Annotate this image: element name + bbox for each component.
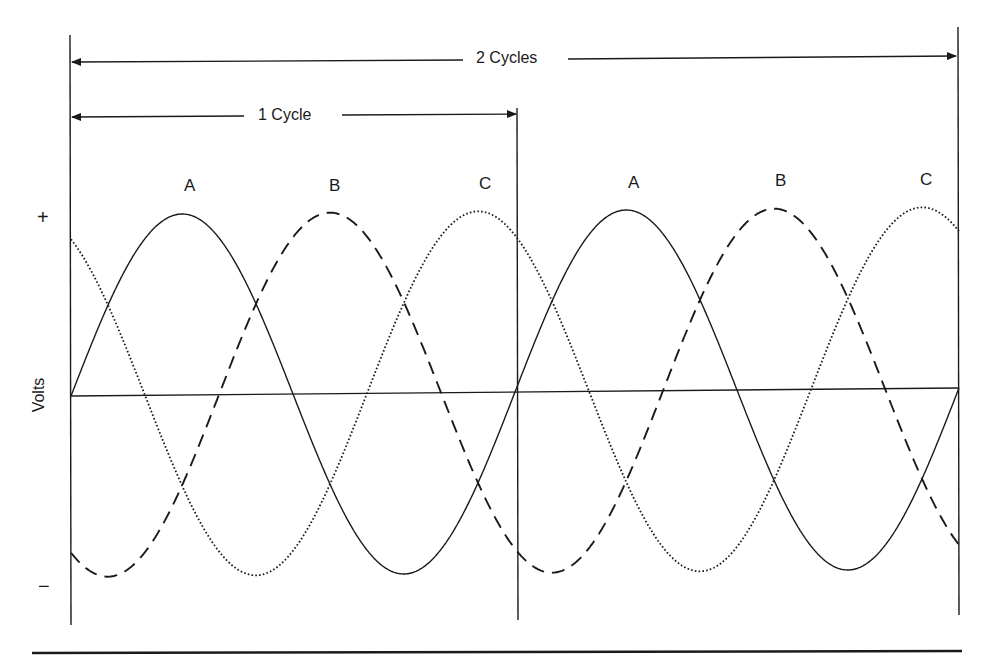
phase-label-c-2: C	[920, 171, 932, 188]
three-phase-diagram: 2 Cycles 1 Cycle A B C A B C + − Volts	[0, 0, 989, 659]
bottom-rule	[32, 651, 962, 653]
negative-sign: −	[38, 576, 50, 596]
phase-label-b-2: B	[775, 172, 786, 189]
phase-label-b-1: B	[329, 177, 340, 194]
one-cycle-label: 1 Cycle	[258, 107, 311, 123]
phase-label-a-2: A	[628, 174, 639, 191]
phase-label-c-1: C	[479, 175, 491, 192]
two-cycle-boundary-line	[958, 27, 959, 615]
positive-sign: +	[37, 207, 49, 227]
one-cycle-arrow-left	[72, 116, 244, 117]
phase-label-a-1: A	[184, 177, 195, 194]
phase-a-waveform	[71, 210, 959, 574]
left-axis-line	[70, 35, 71, 625]
one-cycle-boundary-line	[517, 108, 518, 620]
one-cycle-arrow-right	[342, 114, 516, 115]
y-axis-label-volts: Volts	[30, 378, 48, 413]
waveform-canvas	[0, 0, 989, 659]
two-cycles-arrow-right	[568, 56, 956, 59]
two-cycles-label: 2 Cycles	[476, 50, 537, 66]
two-cycles-arrow-left	[72, 60, 463, 62]
